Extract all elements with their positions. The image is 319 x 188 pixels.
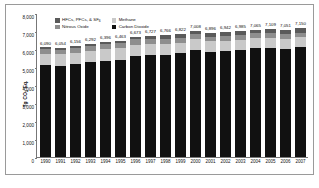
bar-segment [130, 56, 140, 157]
bar-segment [70, 64, 80, 157]
bar-segment [235, 50, 245, 157]
bar-column[interactable]: 6,3961994 [100, 42, 110, 157]
legend-item[interactable]: HFCs, PFCs, & SF6 [55, 18, 101, 23]
bar-total-label: 6,985 [235, 25, 246, 29]
bar-segment [205, 41, 215, 51]
bar-segment [295, 47, 305, 157]
bar-segment [220, 51, 230, 157]
bar-segment [100, 49, 110, 60]
bar-segment [70, 53, 80, 65]
x-axis-tick-label: 1993 [85, 160, 95, 165]
bar-column[interactable]: 6,7271997 [145, 36, 155, 157]
x-axis-tick-label: 2001 [205, 160, 215, 165]
bar-total-label: 6,727 [145, 30, 156, 34]
x-axis-tick-label: 2007 [295, 160, 305, 165]
plot-area: 6,09019906,05419916,15619926,29219936,39… [36, 14, 308, 158]
y-axis-tick-label: 6,000 [23, 52, 35, 57]
bar-column[interactable]: 7,1092005 [265, 29, 275, 157]
x-axis-tick-label: 2006 [280, 160, 290, 165]
bar-column[interactable]: 6,8221999 [175, 34, 185, 157]
bar-segment [145, 55, 155, 157]
bar-segment [115, 60, 125, 157]
bar-segment [220, 41, 230, 51]
bar-column[interactable]: 6,9422002 [220, 32, 230, 157]
bar-column[interactable]: 6,0901990 [40, 47, 50, 157]
bar-column[interactable]: 6,1561992 [70, 46, 80, 157]
bar-segment [145, 44, 155, 55]
bar-column[interactable]: 6,2921993 [85, 44, 95, 157]
bar-segment [160, 44, 170, 55]
bar-segment [280, 39, 290, 49]
bar-column[interactable]: 7,1502007 [295, 28, 305, 157]
bar-column[interactable]: 6,0541991 [55, 48, 65, 157]
bar-column[interactable]: 7,0082000 [190, 31, 200, 157]
bar-total-label: 7,065 [250, 24, 261, 28]
bar-segment [250, 38, 260, 48]
bar-total-label: 7,008 [190, 25, 201, 29]
bar-segment [55, 66, 65, 157]
bar-column[interactable]: 6,6731996 [130, 37, 140, 157]
bar-segment [265, 38, 275, 48]
legend-label: HFCs, PFCs, & SF6 [62, 18, 101, 22]
bar-column[interactable]: 6,4631995 [115, 41, 125, 157]
bar-segment [85, 62, 95, 157]
legend-item[interactable]: Nitrous Oxide [55, 25, 101, 30]
x-axis-tick-label: 1999 [175, 160, 185, 165]
bar-segment [175, 53, 185, 157]
chart-figure: Tg CO2 Eq. 6,09019906,05419916,15619926,… [0, 0, 319, 188]
bar-total-label: 7,150 [295, 22, 306, 26]
y-axis-tick-mark [35, 32, 37, 33]
y-axis-tick-mark [35, 104, 37, 105]
bar-column[interactable]: 7,0652004 [250, 30, 260, 157]
legend-label: Nitrous Oxide [62, 25, 89, 29]
y-axis-tick-label: 0 [31, 160, 34, 165]
legend-swatch-icon [112, 25, 117, 30]
bar-segment [85, 51, 95, 62]
bar-segment [130, 45, 140, 56]
bar-total-label: 7,109 [265, 23, 276, 27]
bar-segment [175, 43, 185, 54]
bar-segment [280, 49, 290, 157]
x-axis-tick-label: 2003 [235, 160, 245, 165]
bar-segment [100, 61, 110, 157]
bar-column[interactable]: 6,7661998 [160, 35, 170, 157]
bar-total-label: 6,942 [220, 26, 231, 30]
bar-total-label: 6,463 [115, 35, 126, 39]
bar-segment [40, 65, 50, 157]
legend-item[interactable]: Carbon Dioxide [112, 25, 149, 30]
legend-label: Methane [119, 18, 136, 22]
x-axis-tick-label: 2002 [220, 160, 230, 165]
bar-column[interactable]: 6,8962001 [205, 33, 215, 157]
legend-swatch-icon [55, 18, 60, 23]
bar-group: 6,09019906,05419916,15619926,29219936,39… [38, 14, 308, 157]
bar-column[interactable]: 6,9852003 [235, 31, 245, 157]
y-axis-tick-mark [35, 86, 37, 87]
bar-total-label: 6,673 [130, 31, 141, 35]
legend-label: Carbon Dioxide [119, 25, 149, 29]
chart-legend: HFCs, PFCs, & SF6MethaneNitrous OxideCar… [55, 18, 149, 29]
bar-total-label: 6,156 [70, 40, 81, 44]
y-axis-tick-label: 3,000 [23, 106, 35, 111]
y-axis-tick-mark [35, 68, 37, 69]
legend-swatch-icon [112, 18, 117, 23]
x-axis-tick-label: 2000 [190, 160, 200, 165]
bar-total-label: 6,896 [205, 27, 216, 31]
x-axis-tick-label: 1998 [160, 160, 170, 165]
x-axis-tick-label: 2005 [265, 160, 275, 165]
bar-total-label: 6,054 [55, 42, 66, 46]
y-axis-tick-mark [35, 140, 37, 141]
x-axis-tick-label: 1997 [145, 160, 155, 165]
y-axis-tick-label: 2,000 [23, 124, 35, 129]
y-axis-tick-mark [35, 50, 37, 51]
bar-column[interactable]: 7,0512006 [280, 30, 290, 157]
bar-total-label: 6,292 [85, 38, 96, 42]
bar-segment [205, 52, 215, 157]
legend-item[interactable]: Methane [112, 18, 149, 23]
bar-segment [235, 40, 245, 50]
y-axis-tick-label: 4,000 [23, 88, 35, 93]
x-axis-tick-label: 2004 [250, 160, 260, 165]
y-axis-tick-mark [35, 122, 37, 123]
bar-segment [265, 48, 275, 157]
bar-segment [250, 48, 260, 157]
y-axis-tick-mark [35, 14, 37, 15]
